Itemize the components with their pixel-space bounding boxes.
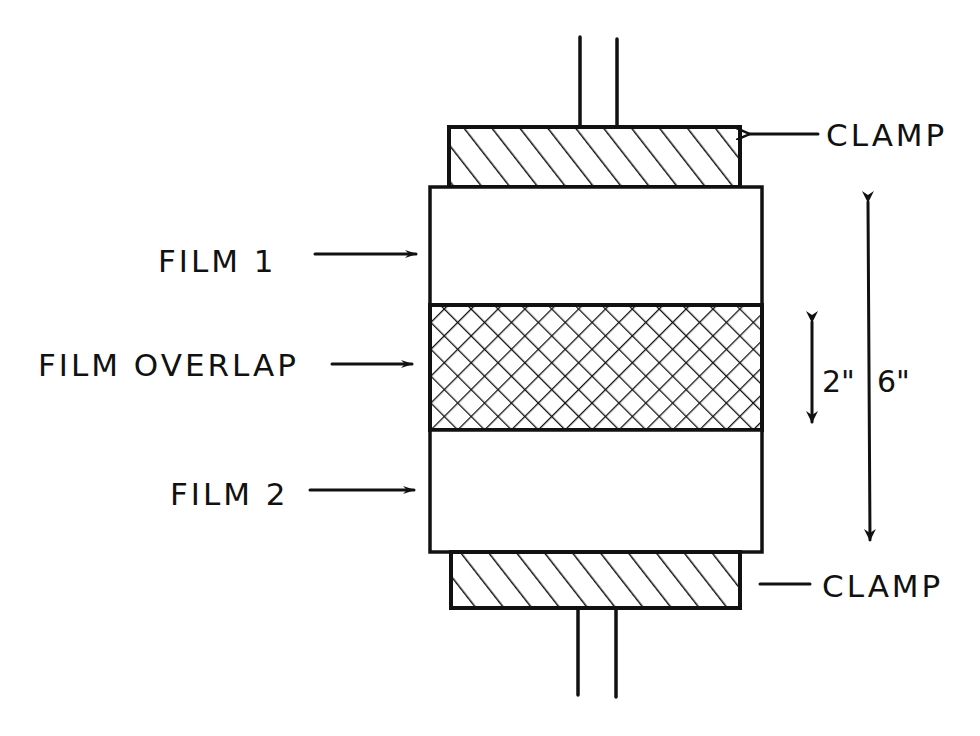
bottom-clamp-hatched-block xyxy=(451,552,740,608)
film-2-region xyxy=(430,430,762,552)
film-2-text: FILM 2 xyxy=(170,476,289,512)
label-film-2: FILM 2 xyxy=(170,476,414,512)
film-overlap-region xyxy=(430,305,762,430)
dimension-overlap: 2" xyxy=(812,322,855,422)
dimension-total: 6" xyxy=(868,202,910,540)
film-overlap-diagram: CLAMP CLAMP FILM 1 FILM OVERLAP FILM 2 2… xyxy=(0,0,980,736)
overlap-length-text: 2" xyxy=(822,364,855,399)
label-clamp-top: CLAMP xyxy=(749,117,947,153)
film-assembly xyxy=(430,187,762,552)
label-film-1: FILM 1 xyxy=(158,243,416,279)
film-1-text: FILM 1 xyxy=(158,243,277,279)
top-grip-rods xyxy=(580,37,617,127)
double-arrow-icon xyxy=(868,202,870,540)
top-clamp xyxy=(449,127,740,187)
bottom-grip-rods xyxy=(578,608,616,697)
top-clamp-hatched-block xyxy=(449,127,740,187)
bottom-clamp xyxy=(451,552,740,608)
clamp-top-text: CLAMP xyxy=(826,117,947,153)
clamp-bottom-text: CLAMP xyxy=(822,568,943,604)
label-clamp-bottom: CLAMP xyxy=(760,568,943,604)
label-film-overlap: FILM OVERLAP xyxy=(38,347,412,383)
film-overlap-text: FILM OVERLAP xyxy=(38,347,299,383)
film-1-region xyxy=(430,187,762,305)
total-length-text: 6" xyxy=(877,364,910,399)
